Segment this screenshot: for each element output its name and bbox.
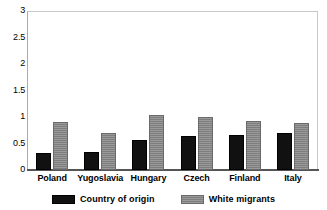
legend-label: Country of origin: [80, 194, 155, 204]
x-axis-labels: PolandYugoslaviaHungaryCzechFinlandItaly: [28, 173, 317, 187]
bar-group: [173, 12, 221, 170]
legend-item: White migrants: [181, 194, 275, 204]
bar-country-of-origin: [84, 152, 99, 170]
bar-group: [28, 12, 76, 170]
y-axis-tick-label: 2.5: [1, 33, 25, 42]
bar-country-of-origin: [132, 140, 147, 170]
y-axis-tick-label: 0.5: [1, 139, 25, 148]
y-axis-tick-label: 3: [1, 6, 25, 15]
y-axis-tick-label: 1.5: [1, 86, 25, 95]
legend-label: White migrants: [209, 194, 275, 204]
bar-group: [269, 12, 317, 170]
bar-country-of-origin: [181, 136, 196, 170]
x-axis-tick-label: Poland: [28, 173, 76, 187]
bar-group: [221, 12, 269, 170]
bar-white-migrants: [101, 133, 116, 170]
y-axis-tick-label: 2: [1, 59, 25, 68]
x-axis-tick-label: Italy: [269, 173, 317, 187]
legend-item: Country of origin: [52, 194, 155, 204]
y-axis: 32.521.510.50: [0, 0, 25, 210]
legend-swatch-country-of-origin: [52, 195, 75, 204]
chart-legend: Country of originWhite migrants: [0, 190, 327, 208]
x-axis-tick-label: Czech: [173, 173, 221, 187]
bar-white-migrants: [294, 123, 309, 170]
bar-country-of-origin: [277, 133, 292, 170]
bar-white-migrants: [149, 115, 164, 170]
bar-white-migrants: [246, 121, 261, 171]
bar-white-migrants: [198, 117, 213, 170]
bar-group: [76, 12, 124, 170]
x-axis-tick-label: Yugoslavia: [76, 173, 124, 187]
bar-group: [124, 12, 172, 170]
bar-white-migrants: [53, 122, 68, 170]
legend-swatch-white-migrants: [181, 195, 204, 204]
y-axis-tick-label: 1: [1, 112, 25, 121]
y-axis-tick-label: 0: [1, 165, 25, 174]
bar-country-of-origin: [229, 135, 244, 170]
bar-country-of-origin: [36, 153, 51, 170]
x-axis-tick-label: Finland: [221, 173, 269, 187]
bar-chart: 32.521.510.50 PolandYugoslaviaHungaryCze…: [0, 0, 327, 210]
x-axis-tick-label: Hungary: [124, 173, 172, 187]
bars-container: [28, 12, 317, 170]
